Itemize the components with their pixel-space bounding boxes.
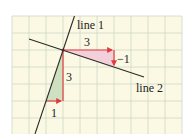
line-2-label: line 2: [136, 81, 163, 95]
line-1-label: line 1: [77, 18, 104, 32]
rise-label-line1: 3: [66, 70, 72, 84]
run-label-line1: 1: [51, 106, 57, 120]
perpendicular-lines-diagram: line 1 line 2 3 −1 3 1: [0, 0, 188, 134]
run-label-line2: 3: [84, 35, 90, 49]
rise-label-line2: −1: [117, 52, 130, 66]
